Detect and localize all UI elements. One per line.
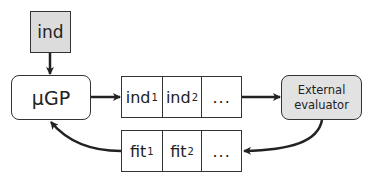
cell-base: fit: [170, 142, 186, 161]
arrow-fitness-to-generator: [51, 122, 121, 151]
evaluator-label-line1: External: [298, 83, 346, 98]
external-evaluator-box: External evaluator: [281, 75, 362, 120]
fitness-cell-1: fit1: [122, 131, 162, 171]
arrow-evaluator-to-fitness: [244, 120, 322, 151]
fitness-cell-2: fit2: [162, 131, 202, 171]
individual-cell-ellipsis: ...: [201, 77, 241, 117]
cell-base: ...: [213, 88, 231, 107]
input-individual-box: ind: [30, 11, 71, 53]
cell-base: fit: [130, 142, 146, 161]
cell-subscript: 2: [187, 146, 193, 157]
individual-cell-2: ind2: [162, 77, 202, 117]
cell-subscript: 1: [147, 146, 153, 157]
individuals-row: ind1 ind2 ...: [121, 76, 242, 118]
cell-base: ind: [166, 88, 191, 107]
fitness-cell-ellipsis: ...: [201, 131, 241, 171]
cell-subscript: 1: [152, 92, 158, 103]
individual-cell-1: ind1: [122, 77, 162, 117]
fitness-row: fit1 fit2 ...: [121, 130, 242, 172]
ugp-generator-label: µGP: [32, 87, 70, 109]
input-individual-label: ind: [37, 22, 63, 42]
cell-base: ind: [126, 88, 151, 107]
cell-base: ...: [213, 142, 231, 161]
cell-subscript: 2: [192, 92, 198, 103]
ugp-generator-box: µGP: [11, 75, 91, 120]
evaluator-label-line2: evaluator: [294, 98, 349, 113]
